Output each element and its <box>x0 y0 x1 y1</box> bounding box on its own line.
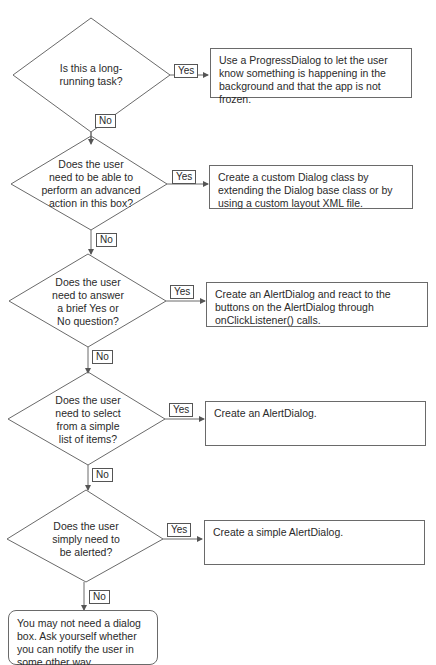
question-line: simply need to <box>36 533 136 546</box>
question-line: Does the user <box>36 520 136 533</box>
no-label-1: No <box>95 114 116 128</box>
question-line: a brief Yes or <box>38 302 138 315</box>
yes-label-3: Yes <box>170 285 194 299</box>
result-box-2: Create a custom Dialog class by extendin… <box>209 165 413 209</box>
result-box-4: Create an AlertDialog. <box>205 401 426 446</box>
decision-2-question: Does the user need to be able to perform… <box>36 158 146 210</box>
no-label-3: No <box>92 350 113 364</box>
question-line: need to answer <box>38 289 138 302</box>
flowchart-connectors <box>0 0 436 665</box>
decision-4-question: Does the user need to select from a simp… <box>38 394 138 446</box>
question-line: need to be able to <box>36 171 146 184</box>
question-line: need to select <box>38 407 138 420</box>
yes-label-1: Yes <box>174 64 198 78</box>
result-box-5: Create a simple AlertDialog. <box>204 520 425 565</box>
question-line: perform an advanced <box>36 184 146 197</box>
yes-label-2: Yes <box>172 170 196 184</box>
no-label-2: No <box>96 233 117 247</box>
question-line: be alerted? <box>36 546 136 559</box>
decision-3-question: Does the user need to answer a brief Yes… <box>38 276 138 328</box>
question-line: list of items? <box>38 433 138 446</box>
question-line: Does the user <box>38 276 138 289</box>
question-line: from a simple <box>38 420 138 433</box>
no-label-5: No <box>89 590 110 604</box>
question-line: Is this a long- <box>46 62 136 75</box>
question-line: Does the user <box>38 394 138 407</box>
yes-label-5: Yes <box>167 523 191 537</box>
decision-1-question: Is this a long- running task? <box>46 62 136 88</box>
question-line: No question? <box>38 315 138 328</box>
result-box-3: Create an AlertDialog and react to the b… <box>206 282 428 327</box>
question-line: Does the user <box>36 158 146 171</box>
result-box-1: Use a ProgressDialog to let the user kno… <box>210 48 412 98</box>
no-label-4: No <box>92 468 113 482</box>
decision-5-question: Does the user simply need to be alerted? <box>36 520 136 559</box>
question-line: action in this box? <box>36 197 146 210</box>
terminal-box: You may not need a dialog box. Ask yours… <box>8 610 158 665</box>
question-line: running task? <box>46 75 136 88</box>
yes-label-4: Yes <box>169 403 193 417</box>
